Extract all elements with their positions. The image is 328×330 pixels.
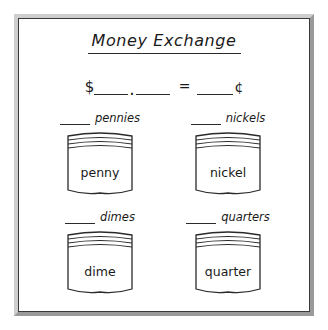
equals-sign: =	[170, 79, 198, 95]
quarter-bag-text: quarter	[205, 264, 252, 279]
penny-label-row: pennies	[50, 107, 150, 125]
total-cents-blank-input[interactable]	[197, 79, 233, 95]
dollars-blank-input[interactable]	[94, 79, 128, 95]
quarter-label-text: quarters	[221, 211, 270, 224]
coin-bag-grid: pennies penny	[19, 107, 309, 305]
nickel-bag-text: nickel	[210, 165, 246, 180]
dime-label-row: dimes	[50, 206, 150, 224]
quarter-label-row: quarters	[178, 206, 278, 224]
worksheet-frame: Money Exchange $ . = ¢ pennies	[14, 14, 314, 316]
money-equation: $ . = ¢	[19, 69, 309, 95]
dollar-sign: $	[85, 80, 95, 95]
dime-label-text: dimes	[100, 211, 135, 224]
dime-bag-text: dime	[84, 264, 116, 279]
page-title: Money Exchange	[88, 31, 241, 54]
coin-cell-nickel: nickels nickel	[178, 107, 278, 199]
page-title-container: Money Exchange	[19, 31, 309, 54]
quarter-bag-icon: quarter	[189, 226, 267, 298]
nickel-bag-icon: nickel	[189, 127, 267, 199]
nickel-label-row: nickels	[178, 107, 278, 125]
penny-bag-icon: penny	[61, 127, 139, 199]
dime-count-blank-input[interactable]	[65, 210, 95, 224]
nickel-label-text: nickels	[226, 112, 266, 125]
nickel-count-blank-input[interactable]	[191, 111, 221, 125]
quarter-count-blank-input[interactable]	[186, 210, 216, 224]
cents-blank-input[interactable]	[136, 79, 170, 95]
coin-row-top: pennies penny	[19, 107, 309, 199]
dime-bag-icon: dime	[61, 226, 139, 298]
coin-cell-dime: dimes dime	[50, 206, 150, 298]
coin-cell-penny: pennies penny	[50, 107, 150, 199]
penny-count-blank-input[interactable]	[60, 111, 90, 125]
cent-sign: ¢	[233, 80, 243, 95]
worksheet-page: Money Exchange $ . = ¢ pennies	[18, 18, 310, 312]
coin-row-bottom: dimes dime	[19, 206, 309, 298]
penny-bag-text: penny	[81, 165, 120, 180]
penny-label-text: pennies	[95, 112, 140, 125]
coin-cell-quarter: quarters quarter	[178, 206, 278, 298]
decimal-point: .	[128, 83, 135, 95]
